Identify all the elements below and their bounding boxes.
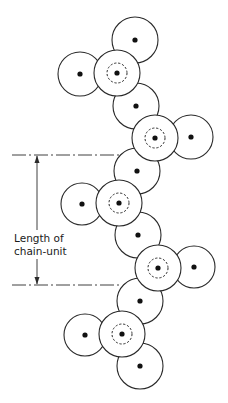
center-dot bbox=[77, 71, 82, 76]
center-dot bbox=[155, 265, 160, 270]
molecule-chain bbox=[58, 17, 215, 389]
arrowhead-down-icon bbox=[35, 277, 40, 285]
branch-atom bbox=[132, 115, 178, 161]
center-dot bbox=[137, 363, 142, 368]
center-dot bbox=[135, 232, 140, 237]
center-dot bbox=[152, 135, 157, 140]
label-line-1: Length of bbox=[14, 232, 67, 245]
center-dot bbox=[116, 200, 121, 205]
chain-unit-diagram bbox=[0, 0, 228, 403]
center-dot bbox=[132, 37, 137, 42]
center-dot bbox=[114, 70, 119, 75]
label-line-2: chain-unit bbox=[14, 245, 67, 258]
branch-atom bbox=[94, 50, 140, 96]
center-dot bbox=[133, 103, 138, 108]
arrowhead-up-icon bbox=[35, 156, 40, 164]
center-dot bbox=[188, 134, 193, 139]
center-dot bbox=[191, 264, 196, 269]
branch-atom bbox=[135, 245, 181, 291]
center-dot bbox=[79, 201, 84, 206]
center-dot bbox=[137, 298, 142, 303]
branch-atom bbox=[96, 180, 142, 226]
center-dot bbox=[82, 332, 87, 337]
branch-atom bbox=[99, 311, 145, 357]
center-dot bbox=[134, 168, 139, 173]
center-dot bbox=[119, 331, 124, 336]
dimension-label: Length of chain-unit bbox=[14, 231, 67, 259]
